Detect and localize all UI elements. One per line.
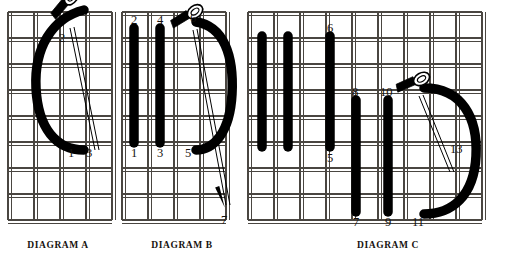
figure-background (0, 0, 507, 264)
stitch-number-13: 13 (450, 142, 463, 156)
stitch-number-9: 9 (385, 215, 391, 229)
stitch-number-10: 10 (380, 85, 393, 99)
stitch-number-7: 7 (353, 215, 359, 229)
stitch-number-1: 1 (131, 146, 137, 160)
caption-diagram-b: DIAGRAM B (132, 240, 232, 250)
stitch-number-2: 2 (131, 13, 137, 27)
stitch-number-2: 2 (59, 31, 65, 45)
stitch-number-8: 8 (352, 85, 358, 99)
stitch-number-5: 5 (327, 151, 333, 165)
stitch-number-3: 3 (86, 146, 92, 160)
stitch-number-3: 3 (157, 146, 163, 160)
stitch-number-6: 6 (327, 21, 333, 35)
stitch-number-7: 7 (221, 213, 227, 227)
stitch-number-4: 4 (157, 13, 164, 27)
stitch-diagram-figure: 213246135765810791113 DIAGRAM A DIAGRAM … (0, 0, 507, 264)
stitch-number-6: 6 (190, 11, 196, 25)
caption-diagram-c: DIAGRAM C (338, 240, 438, 250)
stitch-number-5: 5 (185, 146, 191, 160)
caption-diagram-a: DIAGRAM A (8, 240, 108, 250)
stitch-number-11: 11 (412, 215, 424, 229)
diagram-canvas: 213246135765810791113 (0, 0, 507, 264)
stitch-number-1: 1 (68, 146, 74, 160)
